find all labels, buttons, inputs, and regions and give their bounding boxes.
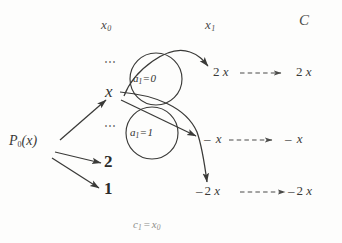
node-root-p0x: P0(x) (9, 134, 37, 149)
figure-caption-c1-eq-x0: c1=x0 (133, 219, 161, 231)
column-header-x0-subscript: 0 (107, 24, 112, 33)
output-x1-two-x: 2 x (211, 65, 229, 78)
output-1-x1-variable: x (216, 131, 222, 146)
output-1-c-variable: x (297, 131, 303, 146)
condition-1-value: 1 (147, 126, 153, 138)
arrow-root-to-x (60, 100, 106, 140)
output-1-c-minus: – (285, 131, 294, 146)
column-header-x1-symbol: x (205, 17, 211, 32)
column-header-x1-subscript: 1 (211, 24, 216, 33)
arrow-root-to-one (52, 158, 99, 188)
figure-canvas: x0 x1 C ⋯ ⋯ x P0(x) 2 1 a1=0 a1=1 2 x – … (0, 0, 342, 243)
output-2-c-coefficient: 2 (297, 183, 304, 198)
ellipsis-above-x: ⋯ (104, 56, 118, 68)
output-c-minus-x: – x (285, 132, 303, 145)
condition-label-a1-eq-1: a1=1 (130, 127, 153, 139)
diagram-vector-layer (0, 0, 342, 243)
output-2-c-minus: – (288, 183, 297, 198)
output-c-two-x: 2 x (294, 65, 312, 78)
column-header-x0: x0 (101, 18, 111, 33)
caption-value-subscript: 0 (157, 223, 161, 232)
column-header-x0-symbol: x (101, 17, 107, 32)
root-argument: (x) (22, 133, 38, 148)
output-x1-minus-x: – x (204, 132, 222, 145)
condition-label-a1-eq-0: a1=0 (133, 73, 156, 85)
node-branch-one: 1 (104, 180, 113, 197)
output-2-x1-minus: – (196, 183, 205, 198)
output-2-x1-coefficient: 2 (205, 183, 212, 198)
node-x: x (105, 83, 113, 100)
arrow-root-to-two (55, 152, 101, 163)
caption-equals: = (142, 218, 152, 230)
output-1-x1-minus: – (204, 131, 213, 146)
output-c-minus-two-x: –2 x (288, 184, 312, 197)
output-0-c-variable: x (306, 64, 312, 79)
root-symbol: P (9, 133, 18, 148)
condition-0-value: 0 (150, 72, 156, 84)
output-2-c-variable: x (306, 183, 312, 198)
column-header-c: C (299, 13, 309, 28)
output-0-c-coefficient: 2 (296, 64, 303, 79)
output-0-x1-coefficient: 2 (213, 64, 220, 79)
output-0-x1-variable: x (223, 64, 229, 79)
column-header-x1: x1 (205, 18, 215, 33)
ellipsis-below-x: ⋯ (104, 120, 118, 132)
output-x1-minus-two-x: –2 x (196, 184, 220, 197)
output-2-x1-variable: x (214, 183, 220, 198)
node-branch-two: 2 (104, 153, 113, 170)
